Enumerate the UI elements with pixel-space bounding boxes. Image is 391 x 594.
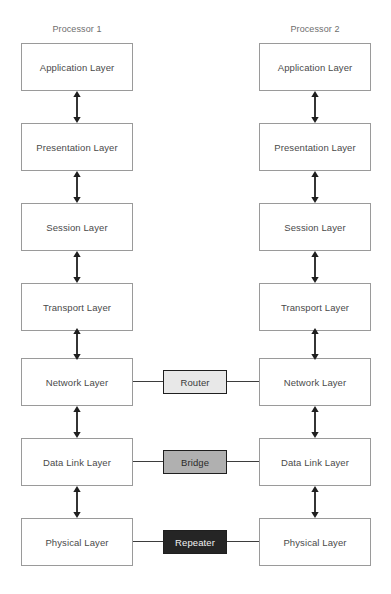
link-line-repeater-right [227,541,259,542]
link-line-bridge-left [133,461,163,462]
vertical-arrow-icon-right-2 [308,171,322,203]
link-line-bridge-right [227,461,259,462]
column-title-processor-2: Processor 2 [259,24,371,34]
vertical-arrow-icon-right-5 [308,406,322,438]
vertical-arrow-icon-left-3 [70,251,84,283]
vertical-arrow-icon-left-1 [70,91,84,123]
layer-box-right-presentation[interactable]: Presentation Layer [259,123,371,171]
layer-box-right-transport[interactable]: Transport Layer [259,283,371,331]
device-box-bridge[interactable]: Bridge [163,450,227,474]
vertical-arrow-icon-left-2 [70,171,84,203]
layer-box-left-network[interactable]: Network Layer [21,358,133,406]
device-box-repeater[interactable]: Repeater [163,530,227,554]
layer-box-left-data-link[interactable]: Data Link Layer [21,438,133,486]
layer-box-left-application[interactable]: Application Layer [21,43,133,91]
vertical-arrow-icon-left-5 [70,406,84,438]
device-box-router[interactable]: Router [163,370,227,394]
link-line-router-right [227,381,259,382]
vertical-arrow-icon-right-1 [308,91,322,123]
layer-box-right-network[interactable]: Network Layer [259,358,371,406]
vertical-arrow-icon-left-6 [70,486,84,518]
layer-box-left-transport[interactable]: Transport Layer [21,283,133,331]
vertical-arrow-icon-right-4 [308,328,322,360]
vertical-arrow-icon-right-6 [308,486,322,518]
link-line-repeater-left [133,541,163,542]
layer-box-left-presentation[interactable]: Presentation Layer [21,123,133,171]
layer-box-left-physical[interactable]: Physical Layer [21,518,133,566]
layer-box-right-application[interactable]: Application Layer [259,43,371,91]
osi-model-diagram: Processor 1 Processor 2 Application Laye… [0,0,391,594]
layer-box-right-physical[interactable]: Physical Layer [259,518,371,566]
vertical-arrow-icon-left-4 [70,328,84,360]
link-line-router-left [133,381,163,382]
column-title-processor-1: Processor 1 [21,24,133,34]
vertical-arrow-icon-right-3 [308,251,322,283]
layer-box-left-session[interactable]: Session Layer [21,203,133,251]
layer-box-right-session[interactable]: Session Layer [259,203,371,251]
layer-box-right-data-link[interactable]: Data Link Layer [259,438,371,486]
